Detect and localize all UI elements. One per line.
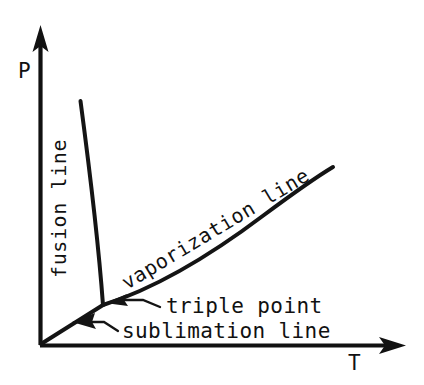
phase-diagram-figure: P T fusion line vaporization line triple… [0,0,424,385]
pressure-axis-label: P [18,59,31,83]
vaporization-line-label: vaporization line [117,163,314,294]
phase-diagram-canvas: P T fusion line vaporization line triple… [0,0,424,385]
temperature-axis-label: T [348,351,361,375]
fusion-line-curve [81,101,104,305]
sublimation-line-label: sublimation line [122,319,331,343]
sublimation-line-leader-line [92,322,118,331]
fusion-line-label: fusion line [47,139,71,278]
sublimation-line-curve [41,305,103,344]
triple-point-annotation: triple point [105,294,323,318]
triple-point-label: triple point [166,294,323,318]
